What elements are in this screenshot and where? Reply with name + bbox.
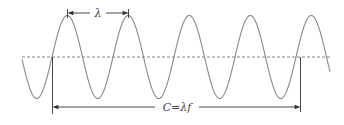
wave-diagram: λ C=λf — [0, 0, 344, 125]
wavelength-label: λ — [94, 7, 102, 20]
speed-label: C=λf — [163, 101, 194, 114]
